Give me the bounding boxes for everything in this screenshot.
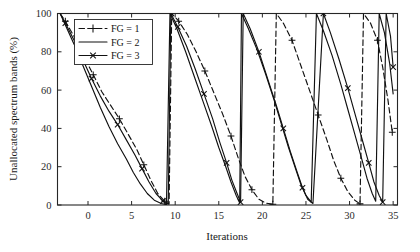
figure-background [0, 0, 420, 252]
y-tick-label: 60 [41, 85, 52, 96]
legend-label-fg1: FG = 1 [111, 23, 139, 34]
chart-legend: FG = 1 FG = 2 FG = 3 [75, 20, 153, 65]
line-chart: 05101520253035 020406080100 Iterations U… [0, 0, 420, 252]
x-tick-label: 10 [170, 210, 181, 221]
x-tick-label: 30 [344, 210, 355, 221]
x-axis-label: Iterations [206, 230, 248, 242]
x-tick-label: 15 [214, 210, 225, 221]
y-tick-label: 100 [36, 8, 52, 19]
x-tick-label: 35 [388, 210, 399, 221]
figure-container: 05101520253035 020406080100 Iterations U… [0, 0, 420, 252]
y-tick-label: 0 [46, 200, 51, 211]
x-tick-label: 0 [85, 210, 90, 221]
y-tick-label: 20 [41, 161, 52, 172]
x-tick-label: 20 [257, 210, 268, 221]
legend-label-fg2: FG = 2 [111, 37, 139, 48]
legend-label-fg3: FG = 3 [111, 50, 139, 61]
y-tick-label: 40 [41, 123, 52, 134]
x-tick-label: 5 [129, 210, 134, 221]
y-tick-label: 80 [41, 46, 52, 57]
x-tick-label: 25 [301, 210, 312, 221]
y-axis-label: Unallocated spectrum bands (%) [7, 37, 20, 181]
